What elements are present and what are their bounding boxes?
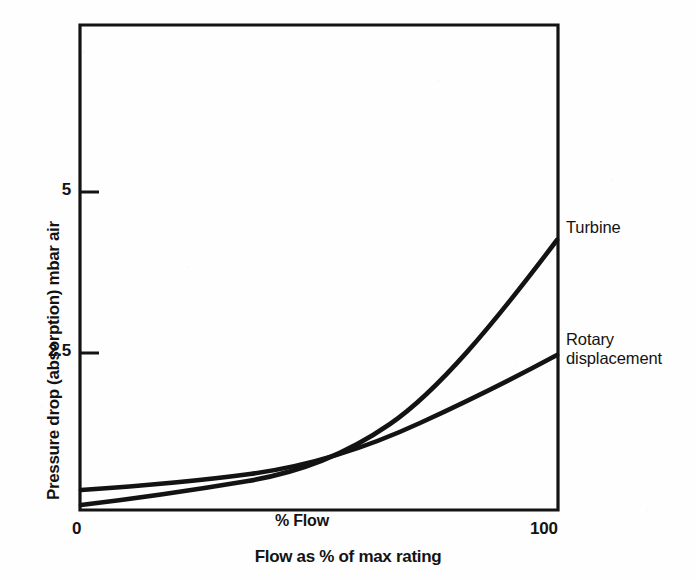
- x-axis-inline-label: % Flow: [275, 512, 329, 530]
- series-label-rotary-displacement: Rotary displacement: [566, 330, 662, 368]
- y-tick-label-2-5: 2.5: [34, 341, 71, 361]
- x-axis-title: Flow as % of max rating: [0, 547, 696, 567]
- series-curve-turbine: [81, 240, 557, 505]
- axis-frame: [80, 25, 558, 510]
- y-axis-title: Pressure drop (absorption) mbar air: [44, 20, 64, 500]
- series-label-turbine: Turbine: [566, 218, 621, 237]
- series-curve-rotary-displacement: [81, 355, 557, 490]
- plot-canvas: [0, 0, 696, 580]
- chart-figure: Pressure drop (absorption) mbar air 5 2.…: [0, 0, 696, 580]
- y-tick-label-5: 5: [55, 180, 71, 200]
- x-tick-label-100: 100: [530, 519, 558, 539]
- x-tick-label-0: 0: [72, 519, 81, 539]
